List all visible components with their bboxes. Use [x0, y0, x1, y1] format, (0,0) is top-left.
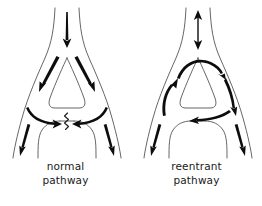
leftward-arrow-icon: [189, 110, 231, 124]
vessel-leg-left-inner: [169, 121, 191, 158]
caption-line-1: normal: [0, 160, 131, 174]
curved-left-arrow-icon: [72, 107, 108, 128]
vessel-leg-right-inner: [74, 121, 96, 158]
caption-line-1: reentrant: [131, 160, 262, 174]
vessel-outline-right: [210, 8, 252, 158]
caption-normal-pathway: normal pathway: [0, 160, 131, 187]
leg-left-down-arrow-icon: [19, 124, 30, 156]
vessel-outline-left: [144, 8, 186, 158]
curved-right-arrow-icon: [26, 107, 62, 128]
caption-line-2: pathway: [0, 174, 131, 188]
panel-normal-pathway: normal pathway: [0, 0, 131, 206]
vessel-outline-left: [13, 8, 55, 158]
figure-canvas: normal pathway: [0, 0, 262, 206]
diagram-reentrant-pathway: [131, 0, 262, 160]
down-right-arrow-icon: [75, 56, 96, 92]
down-left-arrow-icon: [39, 56, 60, 92]
vessel-leg-right-inner: [205, 121, 227, 158]
diagram-normal-pathway: [0, 0, 131, 160]
leg-left-down-arrow-icon: [150, 124, 161, 156]
leg-right-down-arrow-icon: [104, 124, 115, 156]
vessel-leg-left-inner: [38, 121, 60, 158]
leg-right-down-arrow-icon: [235, 124, 246, 156]
down-arrow-icon: [63, 12, 72, 48]
vessel-outline-right: [79, 8, 121, 158]
double-headed-vertical-arrow-icon: [194, 10, 202, 50]
panel-reentrant-pathway: reentrant pathway: [131, 0, 262, 206]
caption-reentrant-pathway: reentrant pathway: [131, 160, 262, 187]
curved-top-right-arrow-icon: [177, 60, 226, 80]
caption-line-2: pathway: [131, 174, 262, 188]
